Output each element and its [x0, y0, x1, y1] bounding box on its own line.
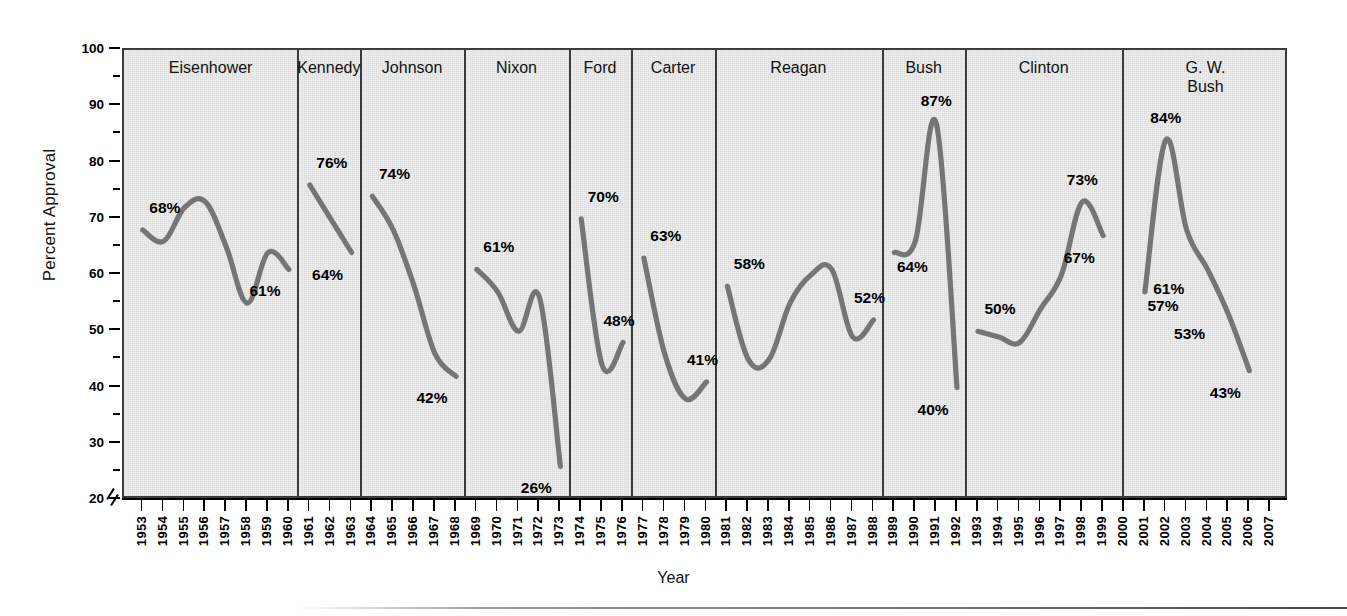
x-tick-label: 1961	[301, 516, 316, 546]
x-tick-label: 1995	[1011, 516, 1026, 546]
x-tick-label: 1965	[384, 516, 399, 546]
x-tick-label: 1993	[969, 516, 984, 546]
x-tick-label: 1998	[1073, 516, 1088, 546]
x-tick-label: 1959	[259, 516, 274, 546]
bottom-rule	[296, 607, 1347, 609]
x-tick-label: 1980	[698, 516, 713, 546]
x-tick-label: 1958	[238, 516, 253, 546]
x-tick-label: 1964	[363, 516, 378, 546]
x-tick-label: 1966	[405, 516, 420, 546]
x-tick-label: 1971	[510, 516, 525, 546]
x-tick-label: 1967	[426, 516, 441, 546]
x-tick-label: 1996	[1032, 516, 1047, 546]
x-tick-label: 1956	[196, 516, 211, 546]
x-tick-label: 2001	[1136, 516, 1151, 546]
x-axis-title: Year	[0, 569, 1347, 587]
x-tick-label: 1968	[447, 516, 462, 546]
x-tick-label: 1976	[614, 516, 629, 546]
x-tick-label: 1954	[155, 516, 170, 546]
x-tick-label: 2005	[1219, 516, 1234, 546]
x-tick-label: 1960	[280, 516, 295, 546]
x-tick-label: 1985	[802, 516, 817, 546]
x-tick-label: 1981	[718, 516, 733, 546]
x-tick-label: 1953	[134, 516, 149, 546]
x-tick-label: 2004	[1199, 516, 1214, 546]
x-tick-label: 1969	[468, 516, 483, 546]
x-tick-label: 1962	[322, 516, 337, 546]
x-tick-label: 2007	[1261, 516, 1276, 546]
x-tick-label: 1975	[593, 516, 608, 546]
x-tick-label: 1992	[948, 516, 963, 546]
x-tick-label: 1982	[739, 516, 754, 546]
x-tick-label: 2002	[1157, 516, 1172, 546]
x-tick-label: 1990	[906, 516, 921, 546]
x-tick-label: 2003	[1178, 516, 1193, 546]
x-tick-label: 1999	[1094, 516, 1109, 546]
x-tick-label: 2000	[1115, 516, 1130, 546]
x-tick-label: 1994	[990, 516, 1005, 546]
x-tick-label: 2006	[1240, 516, 1255, 546]
x-tick-label: 1997	[1052, 516, 1067, 546]
x-tick-label: 1974	[572, 516, 587, 546]
x-tick-label: 1963	[343, 516, 358, 546]
x-tick-label: 1987	[844, 516, 859, 546]
x-tick-label: 1986	[823, 516, 838, 546]
x-tick-label: 1989	[885, 516, 900, 546]
x-tick-label: 1983	[760, 516, 775, 546]
x-tick-label: 1957	[217, 516, 232, 546]
x-axis-tick-labels: 1953195419551956195719581959196019611962…	[0, 0, 1347, 616]
x-tick-label: 1988	[865, 516, 880, 546]
x-tick-label: 1970	[489, 516, 504, 546]
x-tick-label: 1977	[635, 516, 650, 546]
x-tick-label: 1979	[677, 516, 692, 546]
x-tick-label: 1972	[530, 516, 545, 546]
x-tick-label: 1955	[176, 516, 191, 546]
chart-root: Percent Approval 1009080706050403020 Eis…	[0, 0, 1347, 616]
x-tick-label: 1978	[656, 516, 671, 546]
x-tick-label: 1984	[781, 516, 796, 546]
x-tick-label: 1991	[927, 516, 942, 546]
x-tick-label: 1973	[551, 516, 566, 546]
